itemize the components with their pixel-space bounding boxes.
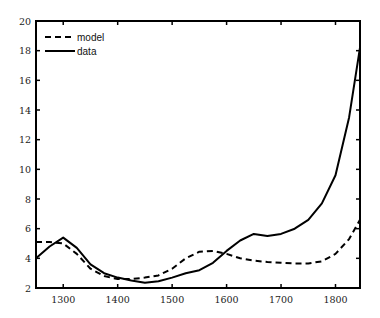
y-tick-label: 2	[25, 283, 31, 294]
y-tick-label: 14	[19, 105, 31, 116]
y-tick-label: 18	[19, 45, 31, 56]
y-tick-label: 12	[19, 134, 31, 145]
y-tick-label: 4	[25, 253, 31, 264]
legend-model-label: model	[77, 32, 104, 43]
x-tick-label: 1400	[106, 294, 130, 305]
x-tick-label: 1800	[323, 294, 347, 305]
y-tick-label: 10	[19, 164, 31, 175]
y-tick-label: 16	[19, 75, 31, 86]
line-chart: 2468101214161820 13001400150016001700180…	[0, 0, 380, 318]
legend: model data	[45, 32, 104, 57]
plot-frame	[36, 21, 360, 288]
x-tick-label: 1300	[51, 294, 75, 305]
x-tick-label: 1700	[269, 294, 293, 305]
y-axis-ticks: 2468101214161820	[19, 16, 360, 294]
y-tick-label: 6	[25, 223, 31, 234]
plot-lines	[36, 48, 360, 283]
data-line	[36, 48, 360, 283]
y-tick-label: 20	[19, 16, 31, 27]
x-axis-ticks: 130014001500160017001800	[51, 21, 347, 305]
legend-data-label: data	[77, 46, 97, 57]
x-tick-label: 1600	[214, 294, 238, 305]
x-tick-label: 1500	[160, 294, 184, 305]
y-tick-label: 8	[25, 194, 31, 205]
